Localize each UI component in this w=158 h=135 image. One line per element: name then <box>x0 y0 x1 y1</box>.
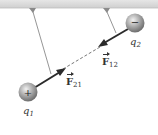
string-left <box>33 12 51 74</box>
charge-sphere-q1: + <box>19 83 38 102</box>
minus-sign-icon: − <box>131 17 139 28</box>
line-of-action <box>63 47 100 69</box>
label-f12: F12 <box>102 57 118 69</box>
label-f21: F21 <box>66 77 82 89</box>
label-q1: q1 <box>23 106 34 118</box>
coulomb-force-diagram: + − q1 q2 F21 F12 <box>0 0 158 135</box>
string-mount-left <box>29 8 36 13</box>
string-right <box>107 12 116 33</box>
label-q2: q2 <box>130 37 141 49</box>
string-mount-right <box>103 8 110 13</box>
plus-sign-icon: + <box>24 87 32 98</box>
ceiling <box>0 0 158 8</box>
charge-sphere-q2: − <box>126 14 145 33</box>
force-arrow-f12 <box>98 29 128 47</box>
